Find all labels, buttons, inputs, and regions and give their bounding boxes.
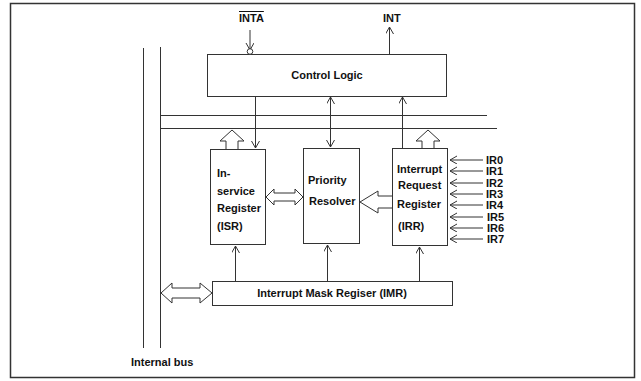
hollow-arrow-up-icon [220,130,244,149]
isr-label-line-2: service [217,186,255,197]
hollow-arrow-left-icon [360,191,392,213]
priority-resolver-label-line-1: Priority [308,175,347,186]
isr-label-line-1: In- [217,168,230,179]
irr-label-line-2: Request [398,180,441,191]
irr-label-line-4: (IRR) [398,221,424,232]
hollow-double-arrow-icon [161,283,212,303]
inta-bubble-icon [247,49,253,55]
inta-signal-label: INTA [239,13,264,24]
internal-bus-label: Internal bus [131,357,193,368]
irr-label-line-3: Register [397,199,441,210]
int-signal-label: INT [383,13,401,24]
ir1-label: IR1 [486,166,503,177]
frame-border [11,4,635,378]
imr-label: Interrupt Mask Regiser (IMR) [212,288,452,299]
ir7-label: IR7 [487,234,504,245]
irr-label-line-1: Interrupt [397,164,442,175]
isr-label-line-3: Register [217,203,261,214]
ir4-label: IR4 [486,200,503,211]
diagram-canvas [0,0,641,381]
priority-resolver-label-line-2: Resolver [309,196,355,207]
isr-label-line-4: (ISR) [217,221,243,232]
control-logic-label: Control Logic [207,70,447,81]
hollow-arrow-up-icon [416,130,440,148]
hollow-double-arrow-icon [266,189,303,205]
